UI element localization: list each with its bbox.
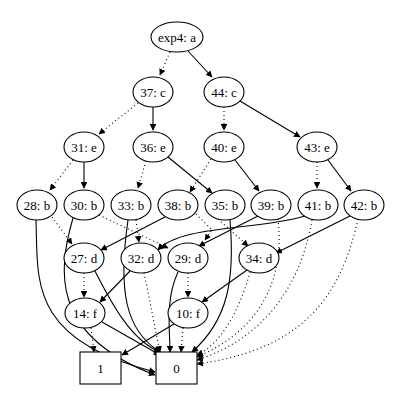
node-label: 1 xyxy=(97,361,104,376)
node-label: 31: e xyxy=(71,140,97,155)
graph-node-37: 37: c xyxy=(133,77,173,107)
bdd-graph: exp4: a37: c44: c31: e36: e40: e43: e28:… xyxy=(0,0,403,400)
graph-node-42: 42: b xyxy=(344,190,384,220)
low-edge xyxy=(181,328,183,352)
node-label: 41: b xyxy=(305,198,331,213)
high-edge xyxy=(328,160,351,191)
node-label: 28: b xyxy=(24,198,50,213)
graph-node-36: 36: e xyxy=(133,132,173,162)
node-label: 0 xyxy=(173,361,180,376)
graph-node-27: 27: d xyxy=(64,243,104,273)
node-label: 14: f xyxy=(73,306,98,321)
high-edge xyxy=(168,157,212,193)
node-label: 33: b xyxy=(118,198,144,213)
graph-node-31: 31: e xyxy=(64,132,104,162)
terminal-node-1: 1 xyxy=(80,352,121,384)
node-label: 43: e xyxy=(304,140,330,155)
graph-node-40: 40: e xyxy=(204,132,244,162)
graph-node-39: 39: b xyxy=(251,190,291,220)
node-label: 37: c xyxy=(140,85,166,100)
high-edge xyxy=(188,51,212,77)
graph-node-32: 32: d xyxy=(121,243,161,273)
graph-node-30: 30: b xyxy=(64,190,104,220)
node-label: 42: b xyxy=(351,198,377,213)
terminal-node-0: 0 xyxy=(156,352,197,384)
low-edge xyxy=(197,219,279,357)
node-label: 32: d xyxy=(128,251,155,266)
high-edge xyxy=(202,270,247,302)
node-label: 27: d xyxy=(71,251,98,266)
low-edge xyxy=(50,160,73,190)
node-label: 35: b xyxy=(212,198,238,213)
node-label: 36: e xyxy=(140,140,166,155)
low-edge xyxy=(160,52,170,75)
high-edge xyxy=(276,216,350,253)
graph-node-33: 33: b xyxy=(111,190,151,220)
graph-node-29: 29: d xyxy=(168,243,208,273)
node-label: 34: d xyxy=(246,251,273,266)
graph-node-exp4: exp4: a xyxy=(151,22,203,52)
graph-node-10: 10: f xyxy=(168,298,208,328)
node-label: 38: b xyxy=(165,198,191,213)
node-layer: exp4: a37: c44: c31: e36: e40: e43: e28:… xyxy=(17,22,384,384)
high-edge xyxy=(235,160,259,191)
low-edge xyxy=(197,219,358,364)
low-edge xyxy=(197,220,312,360)
graph-node-44: 44: c xyxy=(204,77,244,107)
node-label: 44: c xyxy=(211,85,237,100)
low-edge xyxy=(138,161,146,188)
graph-node-35: 35: b xyxy=(205,190,245,220)
graph-node-43: 43: e xyxy=(297,132,337,162)
node-label: 29: d xyxy=(175,251,202,266)
graph-node-38: 38: b xyxy=(158,190,198,220)
node-label: exp4: a xyxy=(158,30,196,45)
node-label: 30: b xyxy=(71,198,97,213)
low-edge xyxy=(190,159,211,192)
node-label: 39: b xyxy=(258,198,284,213)
graph-node-14: 14: f xyxy=(65,298,105,328)
low-edge xyxy=(52,217,72,244)
low-edge xyxy=(99,103,138,134)
low-edge xyxy=(196,214,212,240)
node-label: 10: f xyxy=(176,306,201,321)
high-edge xyxy=(240,101,300,137)
graph-node-34: 34: d xyxy=(239,243,279,273)
high-edge xyxy=(124,220,160,352)
graph-node-28: 28: b xyxy=(17,190,57,220)
node-label: 40: e xyxy=(211,140,237,155)
graph-node-41: 41: b xyxy=(298,190,338,220)
